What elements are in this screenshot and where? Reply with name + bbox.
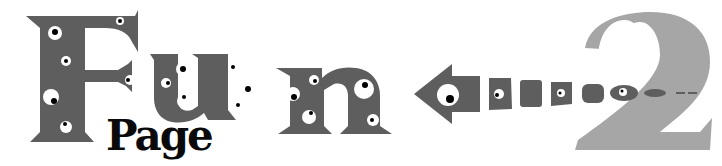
page-word: Page — [106, 111, 212, 160]
page-text: Page — [106, 111, 212, 160]
fun-page-2-logo: Page — [0, 0, 722, 166]
number-two — [575, 12, 712, 150]
letter-n — [276, 67, 392, 134]
